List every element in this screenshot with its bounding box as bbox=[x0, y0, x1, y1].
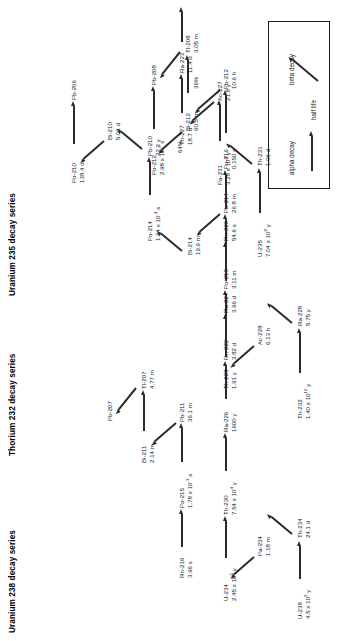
node-pa-234: Pa-234 1.18 m bbox=[256, 536, 272, 556]
node-bi-210: Bi-210 5.01 d bbox=[106, 122, 122, 140]
node-th-234: Th-234 24.1 d bbox=[296, 518, 312, 538]
node-po-218: Po-218 3.11 m bbox=[222, 269, 238, 289]
legend-halflife-label: half life bbox=[310, 100, 317, 120]
node-po-210: Po-210 138.4 d bbox=[70, 162, 86, 183]
legend-beta-label: beta decay bbox=[288, 54, 295, 85]
node-pb-214: Pb-214 26.8 m bbox=[222, 193, 238, 213]
rotated-figure-wrapper: Uranium 238 decay series U-238 4.5 x 109… bbox=[0, 0, 359, 641]
node-u-234: U-234 2.45 x 105 y bbox=[222, 568, 238, 601]
decay-series-figure: Uranium 238 decay series U-238 4.5 x 109… bbox=[0, 0, 359, 641]
node-pb-206: Pb-206 bbox=[70, 80, 78, 100]
legend-box bbox=[268, 21, 330, 189]
node-u-238: U-238 4.5 x 109 y bbox=[296, 590, 312, 619]
node-pb-210: Pb-210 22.3 y bbox=[146, 136, 162, 156]
series-title-u238: Uranium 238 decay series bbox=[8, 530, 17, 633]
node-rn-222: Rn-222 3.82 d bbox=[222, 340, 238, 360]
node-th-230: Th-230 7.54 x 104 y bbox=[222, 482, 238, 515]
node-ra-226: Ra-226 1600 y bbox=[222, 412, 238, 432]
node-po-214: Po-214 1.64 x 10-4 s bbox=[146, 207, 162, 241]
node-bi-214: Bi-214 19.9 m bbox=[186, 236, 202, 255]
legend-alpha-label: alpha decay bbox=[288, 141, 295, 175]
